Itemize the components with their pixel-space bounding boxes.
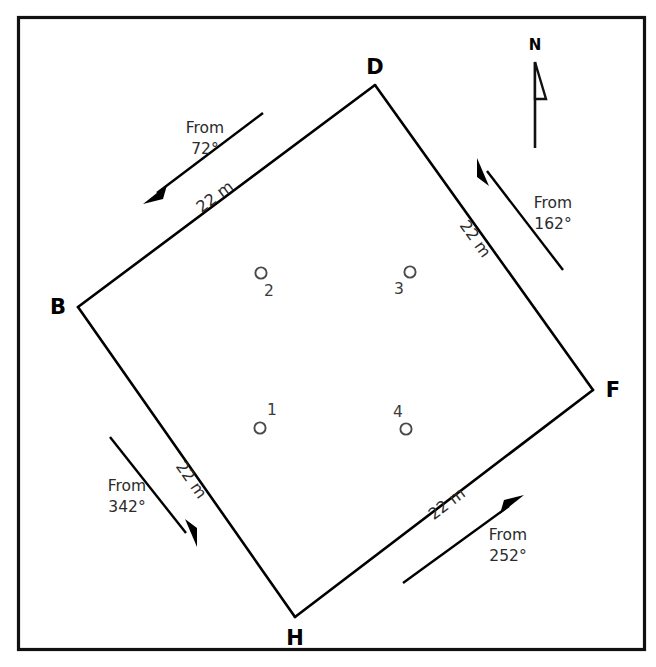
wind-label-from-252-line1: From	[489, 526, 527, 544]
sample-points: 1 2 3 4	[254, 266, 415, 434]
sample-point-marker-2	[255, 267, 266, 278]
sample-point-label-3: 3	[394, 280, 404, 298]
wind-label-from-72-line1: From	[186, 119, 224, 137]
wind-arrow-from-252: From 252°	[403, 495, 527, 583]
wind-label-from-72-line2: 72°	[191, 140, 218, 158]
sample-point-label-2: 2	[264, 282, 274, 300]
edge-length-labels: 22 m 22 m 22 m 22 m	[172, 177, 495, 524]
wind-arrow-head-from-72	[143, 185, 167, 204]
wind-label-from-342-line1: From	[108, 477, 146, 495]
wind-arrow-from-162: From 162°	[477, 158, 572, 270]
vertex-label-B: B	[50, 295, 66, 319]
figure-border	[19, 18, 645, 650]
vertex-label-H: H	[286, 626, 304, 650]
sample-point-label-1: 1	[267, 401, 277, 419]
north-arrow-indicator: N	[529, 36, 546, 148]
north-label: N	[529, 36, 542, 54]
wind-arrow-from-72: From 72°	[143, 113, 263, 204]
sample-point-label-4: 4	[393, 403, 403, 421]
vertex-label-D: D	[366, 55, 383, 79]
wind-label-from-252-line2: 252°	[489, 547, 526, 565]
vertex-label-F: F	[606, 378, 620, 402]
wind-arrow-from-342: From 342°	[108, 437, 197, 547]
edge-length-H-B: 22 m	[172, 458, 211, 503]
wind-arrow-shaft-from-252	[403, 506, 509, 583]
edge-length-B-D: 22 m	[193, 177, 237, 217]
sample-point-marker-4	[400, 423, 411, 434]
survey-plot-diagram: N B D F H 22 m 22 m 22 m 22 m From	[0, 0, 656, 667]
wind-label-from-342-line2: 342°	[108, 498, 145, 516]
sample-point-marker-3	[404, 266, 415, 277]
wind-label-from-162-line2: 162°	[534, 215, 571, 233]
edge-length-D-F: 22 m	[456, 217, 495, 261]
wind-arrow-head-from-342	[185, 519, 197, 547]
sample-point-marker-1	[254, 422, 265, 433]
wind-label-from-162-line1: From	[534, 194, 572, 212]
wind-arrow-head-from-252	[500, 495, 524, 514]
north-arrow-head	[535, 62, 546, 99]
